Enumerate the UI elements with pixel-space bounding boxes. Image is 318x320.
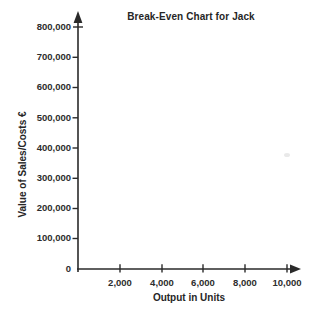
y-tick-label: 400,000: [15, 141, 71, 155]
x-axis-title: Output in Units: [119, 292, 259, 303]
arrow-up-icon: [74, 11, 83, 23]
scan-smudge: [284, 153, 290, 157]
x-tick-label: 4,000: [140, 276, 184, 290]
x-tick-label: 6,000: [181, 276, 225, 290]
x-tick-label: 10,000: [265, 276, 309, 290]
y-tick-label: 800,000: [15, 20, 71, 34]
x-tick-label: 2,000: [98, 276, 142, 290]
y-tick-label: 600,000: [15, 80, 71, 94]
y-tick-label: 700,000: [15, 50, 71, 64]
arrow-right-icon: [290, 265, 301, 274]
break-even-chart: Break-Even Chart for Jack Value of Sales…: [0, 0, 318, 320]
y-tick-label: 100,000: [15, 231, 71, 245]
y-tick-label: 300,000: [15, 171, 71, 185]
y-tick-label: 200,000: [15, 201, 71, 215]
y-tick-label: 500,000: [15, 111, 71, 125]
y-tick-label: 0: [15, 262, 71, 276]
x-tick-label: 8,000: [223, 276, 267, 290]
